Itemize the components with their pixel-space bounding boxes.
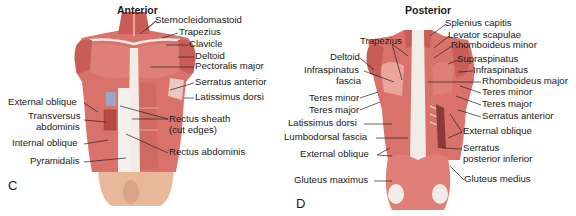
anterior-panel: Anterior Sternocleidomastoid Trapezius C…: [0, 0, 288, 216]
posterior-leader-lines: [288, 0, 576, 216]
posterior-panel: Posterior Splenius capitis Levator scapu…: [288, 0, 576, 216]
panel-letter-d: D: [296, 196, 305, 211]
anterior-leader-lines: [0, 0, 288, 216]
panel-letter-c: C: [8, 178, 17, 193]
